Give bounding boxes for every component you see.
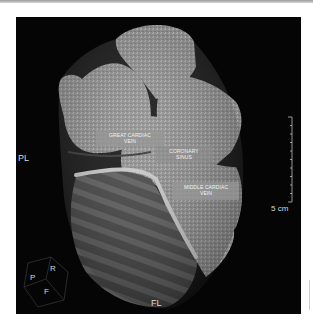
scale-bar-label: 5 cm — [271, 204, 288, 213]
orientation-label-bottom: FL — [151, 298, 162, 308]
annotation-middle-cardiac-vein: MIDDLE CARDIAC VEIN — [173, 182, 239, 200]
render-viewport[interactable]: GREAT CARDIAC VEIN CORONARY SINUS MIDDLE… — [16, 17, 301, 314]
annotation-great-cardiac-vein: GREAT CARDIAC VEIN — [96, 130, 164, 147]
top-border — [0, 0, 313, 3]
annotation-coronary-sinus: CORONARY SINUS — [156, 146, 212, 163]
heart-render — [16, 17, 301, 314]
orientation-cube-f: F — [44, 287, 49, 296]
orientation-cube-r: R — [50, 264, 56, 273]
orientation-cube[interactable] — [24, 257, 68, 307]
orientation-cube-p: P — [30, 273, 35, 282]
right-edge-mark — [309, 280, 310, 310]
scale-bar — [288, 117, 292, 202]
orientation-label-left: PL — [18, 153, 29, 163]
